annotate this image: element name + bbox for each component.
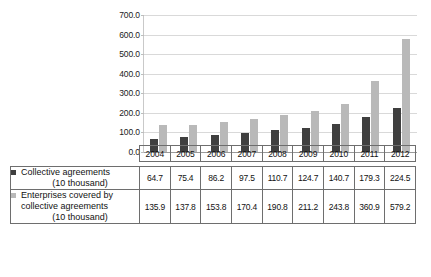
table-corner-cell: [11, 146, 140, 162]
table-value-cell: 153.8: [201, 190, 232, 224]
series-legend-cell: Collective agreements(10 thousand): [11, 167, 140, 190]
table-value-cell: 243.8: [323, 190, 354, 224]
bar-chart: 0.0100.0200.0300.0400.0500.0600.0700.0: [0, 0, 431, 155]
table-value-cell: 86.2: [201, 167, 232, 190]
legend-entry: Enterprises covered bycollective agreeme…: [11, 190, 139, 223]
table-value-cell: 211.2: [293, 190, 324, 224]
series-label: Collective agreements(10 thousand): [21, 167, 139, 189]
table-value-cell: 64.7: [140, 167, 171, 190]
table-value-cell: 179.3: [354, 167, 385, 190]
bar-group: [205, 15, 235, 152]
table-year-header: 2010: [323, 146, 354, 162]
table-value-cell: 124.7: [293, 167, 324, 190]
y-axis-tick-label: 300.0: [96, 89, 140, 98]
legend-swatch-icon: [11, 193, 16, 198]
table-header-row: 200420052006200720082009201020112012: [11, 146, 416, 162]
y-axis-tick-label: 100.0: [96, 128, 140, 137]
series-label-line: Enterprises covered by: [21, 190, 113, 200]
legend-entry: Collective agreements(10 thousand): [11, 167, 139, 189]
bar-group: [265, 15, 295, 152]
data-table: 200420052006200720082009201020112012 Col…: [10, 145, 416, 224]
bar-group: [144, 15, 174, 152]
table-value-cell: 75.4: [170, 167, 201, 190]
table-year-header: 2009: [293, 146, 324, 162]
bar-group: [326, 15, 356, 152]
series-label: Enterprises covered bycollective agreeme…: [21, 190, 139, 223]
legend-swatch-icon: [11, 170, 16, 175]
y-axis-tick-label: 700.0: [96, 11, 140, 20]
bar-group: [296, 15, 326, 152]
table-year-header: 2011: [354, 146, 385, 162]
table-year-header: 2005: [170, 146, 201, 162]
table-value-cell: 224.5: [385, 167, 416, 190]
table-value-cell: 360.9: [354, 190, 385, 224]
y-axis-tick-label: 200.0: [96, 109, 140, 118]
table-year-header: 2006: [201, 146, 232, 162]
bar-group: [235, 15, 265, 152]
table-value-cell: 135.9: [140, 190, 171, 224]
plot-area: [143, 15, 417, 152]
table-value-cell: 137.8: [170, 190, 201, 224]
table-year-header: 2004: [140, 146, 171, 162]
table-year-header: 2007: [231, 146, 262, 162]
series-label-line: Collective agreements: [21, 167, 110, 177]
table-row: Enterprises covered bycollective agreeme…: [11, 190, 416, 224]
bar-group: [356, 15, 386, 152]
table-row: Collective agreements(10 thousand)64.775…: [11, 167, 416, 190]
bar: [402, 39, 410, 152]
y-axis-tick-label: 400.0: [96, 70, 140, 79]
table-year-header: 2012: [385, 146, 416, 162]
bar: [371, 81, 379, 152]
series-label-line: collective agreements: [21, 201, 139, 212]
bar-series-group: [144, 15, 417, 152]
table-year-header: 2008: [262, 146, 293, 162]
table-header: 200420052006200720082009201020112012: [11, 146, 416, 162]
table-value-cell: 97.5: [231, 167, 262, 190]
table-value-cell: 140.7: [323, 167, 354, 190]
series-legend-cell: Enterprises covered bycollective agreeme…: [11, 190, 140, 224]
y-axis-tick-labels: 0.0100.0200.0300.0400.0500.0600.0700.0: [96, 0, 140, 155]
bar-group: [387, 15, 417, 152]
bar-group: [174, 15, 204, 152]
series-label-line: (10 thousand): [21, 178, 139, 189]
table-value-cell: 579.2: [385, 190, 416, 224]
table-value-cell: 190.8: [262, 190, 293, 224]
table-value-cell: 170.4: [231, 190, 262, 224]
table-body: Collective agreements(10 thousand)64.775…: [11, 162, 416, 224]
y-axis-tick-label: 500.0: [96, 50, 140, 59]
y-axis-tick-label: 600.0: [96, 31, 140, 40]
table-value-cell: 110.7: [262, 167, 293, 190]
series-label-line: (10 thousand): [21, 212, 139, 223]
